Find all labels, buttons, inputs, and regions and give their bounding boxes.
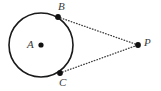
geometry-canvas bbox=[0, 0, 161, 91]
point-label-c: C bbox=[59, 77, 66, 88]
point-label-p: P bbox=[144, 37, 151, 48]
point-label-a: A bbox=[27, 39, 34, 50]
geometry-figure: A B C P bbox=[0, 0, 161, 91]
tangent-line-c-to-p bbox=[60, 45, 138, 73]
point-marker-p bbox=[135, 42, 141, 48]
point-marker-b bbox=[55, 14, 61, 20]
point-marker-a bbox=[38, 42, 43, 47]
point-label-b: B bbox=[58, 1, 65, 12]
